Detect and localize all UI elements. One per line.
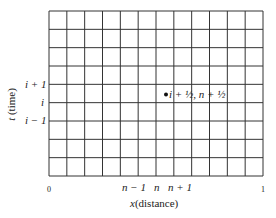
x-tick-n: n	[154, 182, 160, 193]
finite-difference-grid-figure: t (time) i + 1 i i − 1 i + ½, n + ½ 0 1 …	[0, 0, 276, 218]
x-tick-n-plus-1: n + 1	[168, 182, 192, 193]
x-axis-title: x(distance)	[130, 198, 178, 209]
x-axis-start-label: 0	[47, 184, 51, 195]
y-tick-i-minus-1: i − 1	[25, 115, 46, 126]
x-tick-n-minus-1: n − 1	[122, 182, 146, 193]
y-tick-i: i	[41, 97, 44, 108]
grid-point-marker	[164, 93, 168, 97]
x-axis-end-label: 1	[261, 184, 265, 195]
y-tick-i-plus-1: i + 1	[25, 79, 46, 90]
y-axis-title: t (time)	[6, 80, 17, 130]
point-label: i + ½, n + ½	[169, 89, 225, 100]
